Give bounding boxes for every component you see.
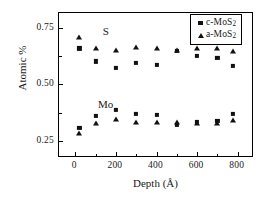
data-point-cmos-s-8: [231, 64, 235, 68]
y-tick-label-0-25: 0.25: [37, 135, 54, 145]
legend-triangle-marker-icon: [195, 33, 206, 38]
data-point-amos-mo-3: [133, 119, 139, 124]
y-tick-label-0-75: 0.75: [37, 22, 54, 32]
annotation-mo: Mo: [98, 98, 113, 110]
x-tick-label-0: 0: [72, 160, 77, 170]
y-tick-0-75: [59, 28, 63, 29]
data-point-amos-s-2: [113, 48, 119, 53]
data-point-amos-mo-8: [230, 117, 236, 122]
x-tick-label-400: 400: [148, 160, 163, 170]
y-minor-tick-0-375: [59, 113, 62, 114]
x-tick-600: [197, 152, 198, 156]
data-point-cmos-mo-1: [93, 114, 97, 118]
data-point-amos-mo-2: [113, 117, 119, 122]
legend-label: c-MoS2: [206, 17, 236, 28]
x-minor-tick-100: [96, 154, 97, 157]
y-tick-0-5: [59, 84, 63, 85]
x-tick-label-800: 800: [229, 160, 244, 170]
data-point-cmos-mo-2: [114, 108, 118, 112]
x-minor-tick-700: [217, 154, 218, 157]
x-tick-0: [75, 152, 76, 156]
data-point-cmos-s-6: [195, 54, 199, 58]
x-tick-label-200: 200: [107, 160, 122, 170]
x-tick-800: [238, 152, 239, 156]
data-point-amos-s-8: [230, 48, 236, 53]
y-minor-tick-0-625: [59, 56, 62, 57]
data-point-amos-mo-6: [194, 120, 200, 125]
data-point-cmos-s-0: [77, 46, 81, 50]
data-point-amos-s-5: [174, 47, 180, 52]
data-point-amos-mo-4: [154, 120, 160, 125]
y-axis-title: Atomic %: [16, 25, 28, 111]
x-minor-tick-300: [136, 154, 137, 157]
data-point-amos-s-0: [76, 35, 82, 40]
data-point-amos-s-4: [154, 45, 160, 50]
data-point-cmos-s-3: [134, 61, 138, 65]
data-point-amos-mo-7: [214, 120, 220, 125]
x-tick-400: [157, 152, 158, 156]
x-minor-tick-500: [177, 154, 178, 157]
legend-label: a-MoS2: [206, 29, 236, 40]
data-point-cmos-s-4: [154, 63, 158, 67]
legend-item-amos: a-MoS2: [195, 29, 236, 41]
y-tick-0-25: [59, 141, 63, 142]
data-point-cmos-s-2: [114, 66, 118, 70]
data-point-amos-mo-0: [76, 130, 82, 135]
data-point-cmos-mo-3: [134, 112, 138, 116]
annotation-s: S: [103, 25, 109, 37]
data-point-cmos-mo-4: [154, 113, 158, 117]
scatter-chart-figure: SMo 0200400600800 0.250.500.75 Depth (Å)…: [0, 0, 274, 208]
data-point-amos-s-7: [214, 45, 220, 50]
data-point-amos-s-1: [93, 45, 99, 50]
y-tick-label-0-50: 0.50: [37, 78, 54, 88]
data-point-cmos-mo-8: [231, 112, 235, 116]
x-tick-200: [116, 152, 117, 156]
data-point-cmos-s-7: [215, 56, 219, 60]
x-axis-title: Depth (Å): [58, 177, 253, 189]
legend-item-cmos: c-MoS2: [195, 17, 236, 29]
data-point-amos-s-6: [194, 45, 200, 50]
legend-square-marker-icon: [195, 21, 206, 25]
data-point-amos-s-3: [133, 45, 139, 50]
data-point-cmos-s-1: [93, 59, 97, 63]
data-point-amos-mo-5: [174, 119, 180, 124]
legend: c-MoS2a-MoS2: [190, 14, 242, 45]
x-tick-label-600: 600: [189, 160, 204, 170]
data-point-amos-mo-1: [93, 120, 99, 125]
